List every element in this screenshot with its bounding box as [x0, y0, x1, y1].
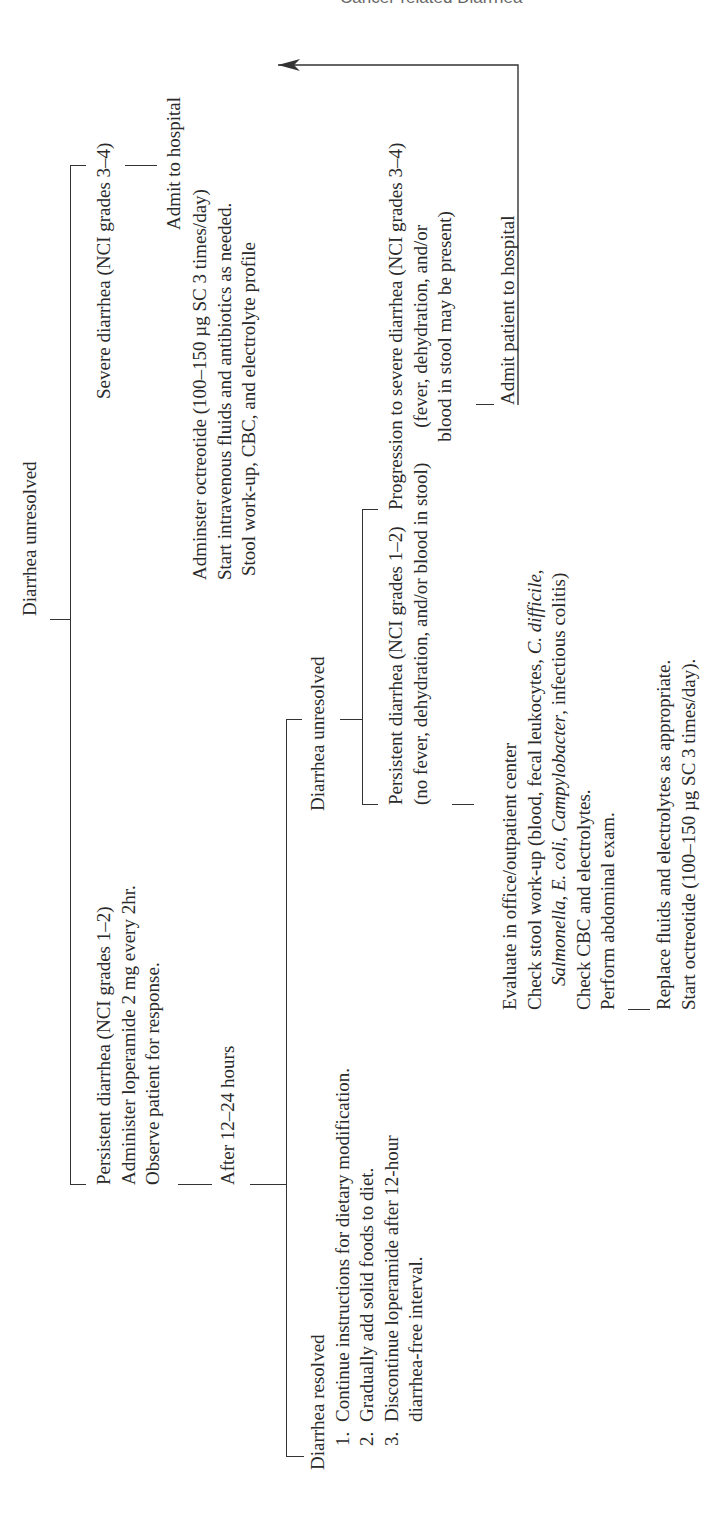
resolved-item-3-cont: diarrhea-free interval.: [404, 1068, 429, 1470]
node-severe-actions: Adminster octreotide (100–150 µg SC 3 ti…: [188, 189, 262, 580]
node-persistent-no-fever: Persistent diarrhea (NCI grades 1–2) (no…: [384, 463, 433, 805]
mild-line-3: Observe patient for response.: [141, 885, 166, 1185]
evaluate-line-1: Evaluate in office/outpatient center: [498, 569, 523, 1010]
persistent2-line-1: Persistent diarrhea (NCI grades 1–2): [384, 463, 409, 805]
severe-action-octreotide: Adminster octreotide (100–150 µg SC 3 ti…: [188, 189, 213, 580]
progression-line-1: Progression to severe diarrhea (NCI grad…: [384, 143, 409, 510]
replace-line-2: Start octreotide (100–150 µg SC 3 times/…: [677, 659, 702, 1010]
node-after-12-24-hours: After 12–24 hours: [216, 1046, 241, 1185]
running-header: Cancer-related Diarrhea: [340, 0, 522, 8]
evaluate-line-3: Salmonella, E. coli, Campylobacter, infe…: [547, 569, 572, 1010]
evaluate-line-5: Perform abdominal exam.: [596, 569, 621, 1010]
node-evaluate-office: Evaluate in office/outpatient center Che…: [498, 569, 621, 1010]
resolved-title: Diarrhea resolved: [306, 1068, 331, 1470]
node-persistent-mild: Persistent diarrhea (NCI grades 1–2) Adm…: [92, 885, 166, 1185]
progression-line-2: (fever, dehydration, and/or: [409, 143, 434, 510]
resolved-item-2: 2.Gradually add solid foods to diet.: [355, 1068, 380, 1470]
node-diarrhea-resolved: Diarrhea resolved 1.Continue instruction…: [306, 1068, 429, 1470]
resolved-item-1: 1.Continue instructions for dietary modi…: [331, 1068, 356, 1470]
node-replace-fluids: Replace fluids and electrolytes as appro…: [652, 659, 701, 1010]
mild-line-2: Administer loperamide 2 mg every 2hr.: [117, 885, 142, 1185]
progression-line-3: blood in stool may be present): [433, 143, 458, 510]
node-admit-patient-to-hospital: Admit patient to hospital: [496, 216, 521, 405]
severe-action-stool-workup: Stool work-up, CBC, and electrolyte prof…: [237, 189, 262, 580]
mild-line-1: Persistent diarrhea (NCI grades 1–2): [92, 885, 117, 1185]
evaluate-line-2: Check stool work-up (blood, fecal leukoc…: [523, 569, 548, 1010]
node-diarrhea-unresolved-top: Diarrhea unresolved: [18, 461, 43, 616]
resolved-item-3: 3.Discontinue loperamide after 12-hour: [380, 1068, 405, 1470]
node-admit-to-hospital: Admit to hospital: [162, 97, 187, 230]
evaluate-line-4: Check CBC and electrolytes.: [572, 569, 597, 1010]
replace-line-1: Replace fluids and electrolytes as appro…: [652, 659, 677, 1010]
flowchart-frame: Diarrhea unresolved Severe diarrhea (NCI…: [0, 0, 722, 1519]
node-diarrhea-unresolved-2: Diarrhea unresolved: [306, 656, 331, 811]
persistent2-line-2: (no fever, dehydration, and/or blood in …: [409, 463, 434, 805]
node-severe-diarrhea: Severe diarrhea (NCI grades 3–4): [92, 143, 117, 399]
node-progression-severe: Progression to severe diarrhea (NCI grad…: [384, 143, 458, 510]
severe-action-iv-fluids: Start intravenous fluids and antibiotics…: [213, 189, 238, 580]
